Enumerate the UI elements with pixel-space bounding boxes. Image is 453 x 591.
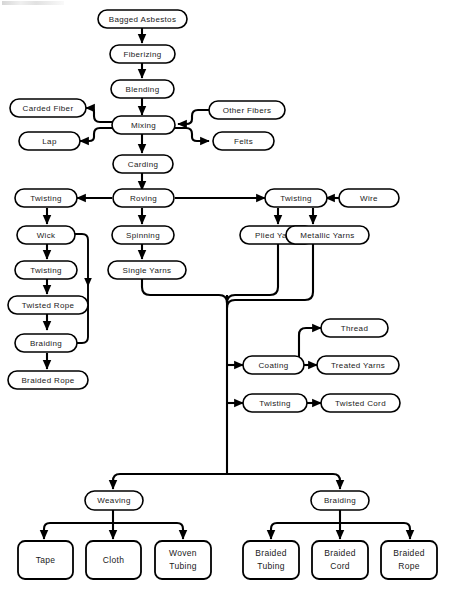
node-coating[interactable]: Coating: [243, 356, 304, 374]
node-roving[interactable]: Roving: [113, 189, 174, 207]
node-metallic-yarns-label: Metallic Yarns: [300, 231, 354, 240]
node-braiding-left-label: Braiding: [30, 339, 62, 348]
flowchart-diagram: Bagged Asbestos Fiberizing Blending Card…: [0, 0, 453, 591]
node-weaving-label: Weaving: [97, 496, 130, 505]
node-braided-tubing[interactable]: Braided Tubing: [243, 541, 299, 579]
node-braided-rope-left[interactable]: Braided Rope: [8, 371, 88, 389]
node-twisted-rope-label: Twisted Rope: [22, 301, 75, 310]
node-single-yarns[interactable]: Single Yarns: [108, 261, 186, 279]
edge-wick-bypass-down: [75, 234, 88, 286]
node-tape-label: Tape: [36, 555, 56, 565]
edge-bus-to-weaving: [113, 474, 227, 489]
node-wick-label: Wick: [37, 231, 56, 240]
node-fiberizing[interactable]: Fiberizing: [110, 45, 175, 63]
node-twisting-right-label: Twisting: [280, 194, 312, 203]
node-lap-label: Lap: [42, 137, 57, 146]
edge-plied-yarns-to-bus: [227, 243, 278, 303]
edge-weaving-to-woven-tubing: [113, 523, 183, 539]
node-bagged-asbestos-label: Bagged Asbestos: [109, 15, 177, 24]
edge-mixing-to-carded-fiber: [86, 108, 112, 122]
edge-bus-to-braiding-bottom: [227, 474, 340, 489]
node-carding-label: Carding: [128, 160, 158, 169]
edge-other-fibers-to-mixing: [178, 110, 209, 124]
node-twisting-left-2-label: Twisting: [30, 266, 62, 275]
node-braided-cord-label-line1: Braided: [324, 548, 355, 558]
node-woven-tubing-label-line1: Woven: [169, 548, 197, 558]
node-thread[interactable]: Thread: [321, 319, 388, 337]
edge-braiding-to-braided-tubing: [271, 523, 340, 539]
node-carded-fiber[interactable]: Carded Fiber: [10, 99, 86, 117]
node-wire-label: Wire: [360, 194, 378, 203]
node-mixing-label: Mixing: [131, 121, 156, 130]
node-twisting-left-2[interactable]: Twisting: [15, 261, 77, 279]
node-braided-tubing-label-line1: Braided: [255, 548, 286, 558]
node-twisted-cord[interactable]: Twisted Cord: [321, 394, 400, 412]
node-braided-cord-label-line2: Cord: [330, 561, 350, 571]
node-wick[interactable]: Wick: [17, 226, 75, 244]
node-treated-yarns-label: Treated Yarns: [331, 361, 385, 370]
node-lap[interactable]: Lap: [19, 132, 80, 150]
node-braided-tubing-label-line2: Tubing: [257, 561, 284, 571]
node-braiding-left[interactable]: Braiding: [15, 334, 77, 352]
node-mixing[interactable]: Mixing: [112, 116, 175, 134]
node-twisting-right[interactable]: Twisting: [265, 189, 327, 207]
node-braiding-bottom[interactable]: Braiding: [311, 491, 369, 510]
node-felts[interactable]: Felts: [213, 132, 274, 150]
node-twisted-cord-label: Twisted Cord: [335, 399, 386, 408]
node-felts-label: Felts: [234, 137, 253, 146]
node-braiding-bottom-label: Braiding: [324, 496, 356, 505]
node-metallic-yarns[interactable]: Metallic Yarns: [286, 226, 369, 244]
edge-mixing-to-lap: [80, 128, 112, 141]
node-fiberizing-label: Fiberizing: [123, 50, 161, 59]
node-carded-fiber-label: Carded Fiber: [23, 104, 74, 113]
node-other-fibers[interactable]: Other Fibers: [209, 101, 285, 119]
edge-braiding-to-braided-rope: [340, 523, 410, 539]
node-braided-rope-left-label: Braided Rope: [21, 376, 74, 385]
node-blending[interactable]: Blending: [111, 80, 174, 98]
node-cloth-label: Cloth: [103, 555, 124, 565]
node-spinning[interactable]: Spinning: [112, 226, 174, 244]
process-flowchart-svg: Bagged Asbestos Fiberizing Blending Card…: [0, 0, 453, 591]
node-wire[interactable]: Wire: [339, 189, 399, 207]
edge-metallic-yarns-to-bus: [227, 243, 313, 308]
node-coating-label: Coating: [258, 361, 288, 370]
node-weaving[interactable]: Weaving: [85, 491, 143, 510]
node-spinning-label: Spinning: [126, 231, 160, 240]
node-twisting-cord-label: Twisting: [259, 399, 291, 408]
node-roving-label: Roving: [130, 194, 157, 203]
node-blending-label: Blending: [126, 85, 160, 94]
node-cloth[interactable]: Cloth: [86, 541, 141, 579]
node-single-yarns-label: Single Yarns: [123, 266, 172, 275]
edge-coating-to-thread: [299, 328, 321, 359]
node-treated-yarns[interactable]: Treated Yarns: [317, 356, 399, 374]
edge-mixing-to-felts: [175, 128, 209, 141]
node-tape[interactable]: Tape: [18, 541, 73, 579]
node-twisted-rope[interactable]: Twisted Rope: [8, 296, 88, 314]
node-carding[interactable]: Carding: [113, 155, 173, 173]
node-other-fibers-label: Other Fibers: [223, 106, 272, 115]
edge-weaving-to-tape: [44, 523, 113, 539]
node-thread-label: Thread: [341, 324, 368, 333]
node-twisting-cord[interactable]: Twisting: [243, 394, 307, 412]
node-woven-tubing[interactable]: Woven Tubing: [155, 541, 211, 579]
edge-single-yarns-to-bus: [142, 278, 227, 303]
node-braided-rope-bottom-label-line2: Rope: [398, 561, 420, 571]
node-braided-cord[interactable]: Braided Cord: [312, 541, 368, 579]
node-twisting-left[interactable]: Twisting: [15, 189, 77, 207]
node-braided-rope-bottom[interactable]: Braided Rope: [381, 541, 437, 579]
node-bagged-asbestos[interactable]: Bagged Asbestos: [98, 10, 187, 28]
node-woven-tubing-label-line2: Tubing: [169, 561, 196, 571]
node-braided-rope-bottom-label-line1: Braided: [393, 548, 424, 558]
node-twisting-left-label: Twisting: [30, 194, 62, 203]
